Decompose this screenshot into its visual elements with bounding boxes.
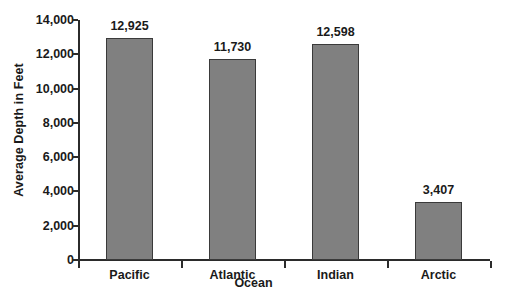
bar-arctic (415, 202, 462, 260)
x-axis-title: Ocean (0, 276, 507, 290)
bar-value-label: 11,730 (214, 40, 252, 54)
bar-value-label: 12,925 (110, 19, 148, 33)
bar-indian (312, 44, 359, 260)
bars-layer: 12,925Pacific11,730Atlantic12,598Indian3… (0, 0, 507, 303)
bar-value-label: 12,598 (316, 25, 354, 39)
bar-atlantic (209, 59, 256, 260)
bar-pacific (106, 38, 153, 260)
bar-value-label: 3,407 (423, 183, 454, 197)
bar-chart: Average Depth in Feet 02,0004,0006,0008,… (0, 0, 507, 303)
